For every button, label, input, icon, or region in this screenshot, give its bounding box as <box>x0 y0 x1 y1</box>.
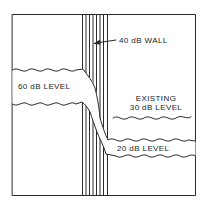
source-level-label: 60 dB LEVEL <box>18 82 70 91</box>
wall-label: 40 dB WALL <box>119 36 168 45</box>
existing-level-label-line2: 30 dB LEVEL <box>118 103 194 112</box>
existing-level-line <box>113 117 191 120</box>
transmitted-level-label: 20 dB LEVEL <box>117 144 169 153</box>
existing-level-label-line1: EXISTING <box>120 94 192 103</box>
